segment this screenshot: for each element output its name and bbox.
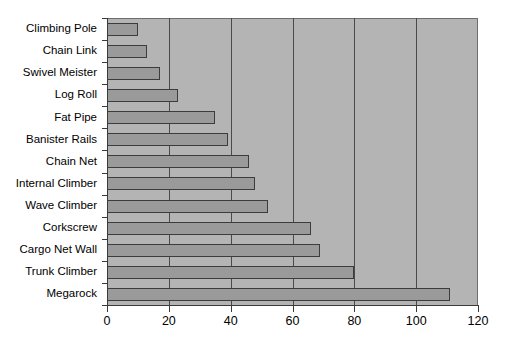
bar-row — [107, 283, 478, 305]
bar[interactable] — [107, 177, 255, 190]
x-axis-tick-label: 20 — [162, 314, 176, 328]
category-label-row: Megarock — [0, 283, 101, 305]
bar-row — [107, 106, 478, 128]
category-label-row: Trunk Climber — [0, 261, 101, 283]
category-label-row: Chain Link — [0, 40, 101, 62]
bar[interactable] — [107, 23, 138, 36]
bar[interactable] — [107, 155, 249, 168]
y-axis-line — [107, 18, 108, 306]
bar[interactable] — [107, 133, 228, 146]
category-label: Swivel Meister — [23, 67, 97, 79]
category-label: Corkscrew — [43, 222, 97, 234]
x-axis-tick-label: 80 — [347, 314, 361, 328]
category-label-row: Wave Climber — [0, 195, 101, 217]
category-label-row: Log Roll — [0, 84, 101, 106]
x-axis-tick — [478, 306, 479, 312]
x-axis-tick — [293, 306, 294, 312]
bars-layer — [107, 18, 478, 305]
category-label: Internal Climber — [16, 178, 97, 190]
x-axis-tick — [169, 306, 170, 312]
category-label-row: Internal Climber — [0, 172, 101, 194]
bar-row — [107, 18, 478, 40]
bar-row — [107, 217, 478, 239]
bar-row — [107, 195, 478, 217]
category-axis-labels: Climbing PoleChain LinkSwivel MeisterLog… — [0, 18, 101, 305]
category-label: Chain Net — [46, 156, 97, 168]
bar-row — [107, 172, 478, 194]
category-label: Trunk Climber — [25, 266, 97, 278]
bar-chart: Climbing PoleChain LinkSwivel MeisterLog… — [0, 0, 506, 349]
category-label: Cargo Net Wall — [19, 244, 97, 256]
x-axis-tick-label: 40 — [224, 314, 238, 328]
bar-row — [107, 128, 478, 150]
x-axis-tick-label: 0 — [104, 314, 111, 328]
x-axis-tick — [416, 306, 417, 312]
category-label-row: Climbing Pole — [0, 18, 101, 40]
category-label-row: Swivel Meister — [0, 62, 101, 84]
category-label: Chain Link — [43, 45, 97, 57]
category-label: Fat Pipe — [54, 112, 97, 124]
category-label: Banister Rails — [26, 134, 97, 146]
category-label-row: Chain Net — [0, 150, 101, 172]
bar[interactable] — [107, 89, 178, 102]
category-label-row: Corkscrew — [0, 217, 101, 239]
x-axis-tick-label: 60 — [286, 314, 300, 328]
bar-row — [107, 239, 478, 261]
x-axis-tick-label: 120 — [468, 314, 489, 328]
bar[interactable] — [107, 222, 311, 235]
bar-row — [107, 40, 478, 62]
x-axis-tick — [107, 306, 108, 312]
category-label-row: Banister Rails — [0, 128, 101, 150]
bar-row — [107, 84, 478, 106]
bar[interactable] — [107, 200, 268, 213]
category-label: Log Roll — [55, 89, 97, 101]
bar[interactable] — [107, 244, 320, 257]
x-axis-tick — [231, 306, 232, 312]
bar[interactable] — [107, 266, 354, 279]
category-label-row: Fat Pipe — [0, 106, 101, 128]
category-label-row: Cargo Net Wall — [0, 239, 101, 261]
bar-row — [107, 261, 478, 283]
category-label: Wave Climber — [25, 200, 97, 212]
bar[interactable] — [107, 288, 450, 301]
bar-row — [107, 62, 478, 84]
bar[interactable] — [107, 45, 147, 58]
x-axis-tick-label: 100 — [406, 314, 427, 328]
category-label: Climbing Pole — [26, 23, 97, 35]
x-axis-tick — [354, 306, 355, 312]
bar[interactable] — [107, 67, 160, 80]
category-label: Megarock — [47, 288, 98, 300]
bar-row — [107, 150, 478, 172]
bar[interactable] — [107, 111, 215, 124]
